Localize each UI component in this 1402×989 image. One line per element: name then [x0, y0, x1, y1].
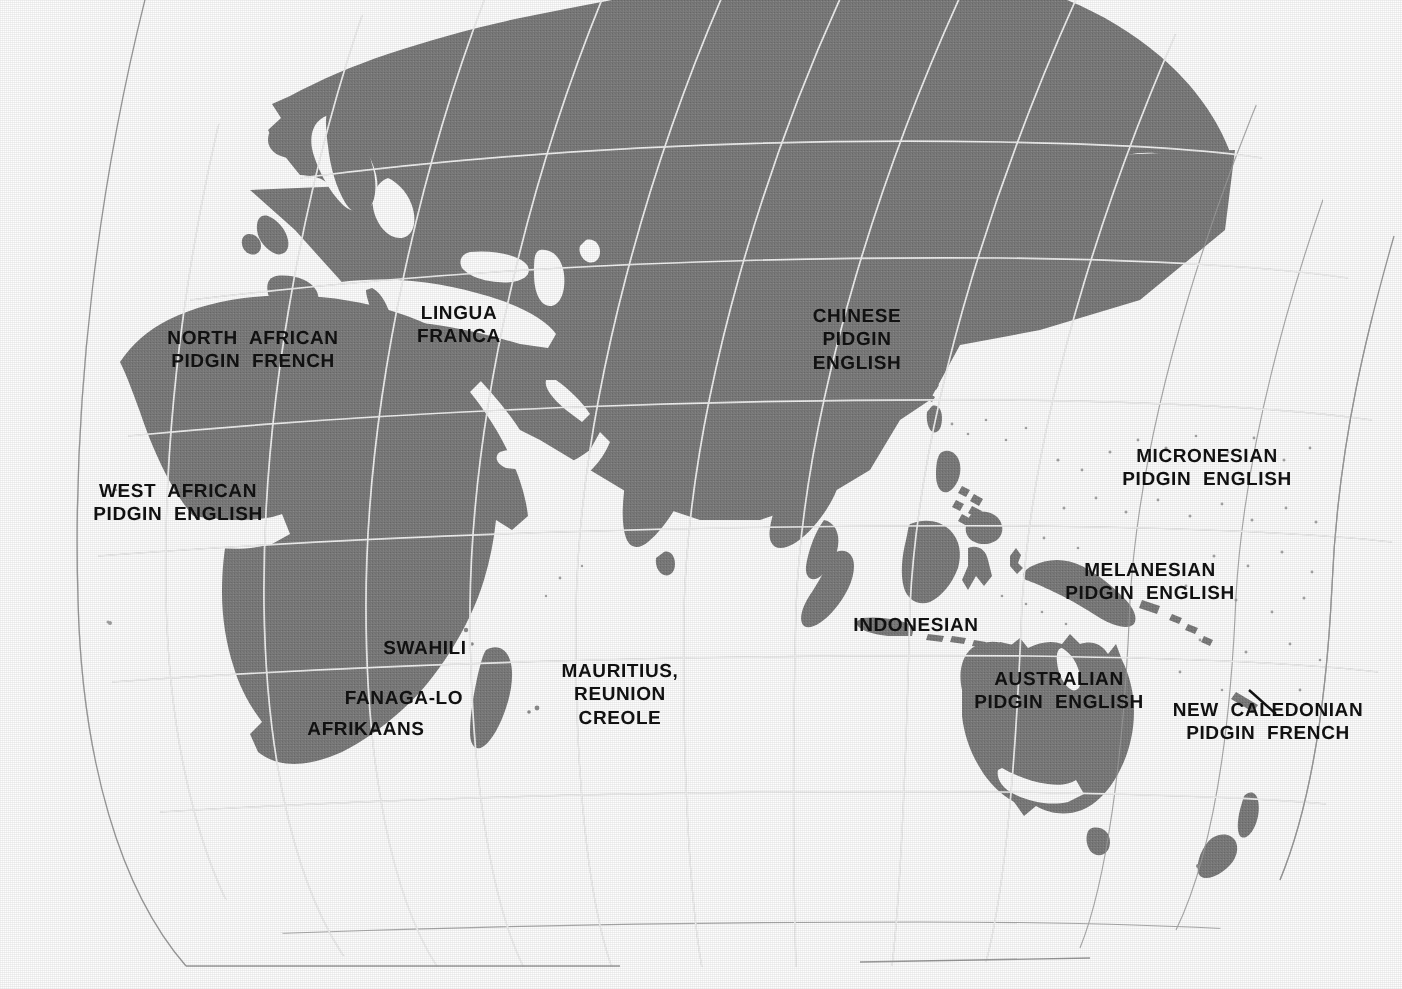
map-label-line: PIDGIN ENGLISH	[974, 691, 1143, 714]
map-label-line: SWAHILI	[383, 637, 466, 660]
map-label-chinese-pidgin-english: CHINESEPIDGINENGLISH	[813, 305, 902, 375]
map-label-new-caledonian-pidgin-french: NEW CALEDONIANPIDGIN FRENCH	[1173, 699, 1364, 745]
map-label-line: PIDGIN FRENCH	[1173, 722, 1364, 745]
map-label-swahili: SWAHILI	[383, 637, 466, 660]
map-label-line: PIDGIN ENGLISH	[1122, 468, 1291, 491]
map-figure: NORTH AFRICANPIDGIN FRENCHLINGUAFRANCAWE…	[0, 0, 1402, 989]
map-label-line: MAURITIUS,	[562, 660, 679, 683]
map-label-line: AUSTRALIAN	[974, 668, 1143, 691]
map-label-lingua-franca: LINGUAFRANCA	[417, 302, 501, 348]
reunion-island	[527, 710, 531, 714]
map-label-line: CHINESE	[813, 305, 902, 328]
map-label-line: PIDGIN	[813, 328, 902, 351]
map-label-line: REUNION	[562, 683, 679, 706]
map-label-australian-pidgin-english: AUSTRALIANPIDGIN ENGLISH	[974, 668, 1143, 714]
map-label-fanaga-lo: FANAGA-LO	[345, 687, 463, 710]
map-label-line: NEW CALEDONIAN	[1173, 699, 1364, 722]
map-label-indonesian: INDONESIAN	[853, 614, 978, 637]
map-label-line: CREOLE	[562, 707, 679, 730]
map-label-line: PIDGIN ENGLISH	[93, 503, 262, 526]
map-label-line: AFRIKAANS	[307, 718, 424, 741]
map-label-line: FRANCA	[417, 325, 501, 348]
map-label-line: FANAGA-LO	[345, 687, 463, 710]
map-label-line: MICRONESIAN	[1122, 445, 1291, 468]
map-label-micronesian-pidgin-english: MICRONESIANPIDGIN ENGLISH	[1122, 445, 1291, 491]
map-label-melanesian-pidgin-english: MELANESIANPIDGIN ENGLISH	[1065, 559, 1234, 605]
map-label-line: PIDGIN FRENCH	[167, 350, 338, 373]
map-label-line: PIDGIN ENGLISH	[1065, 582, 1234, 605]
map-label-line: LINGUA	[417, 302, 501, 325]
map-label-mauritius-reunion-creole: MAURITIUS,REUNIONCREOLE	[562, 660, 679, 730]
map-label-west-african-pidgin-english: WEST AFRICANPIDGIN ENGLISH	[93, 480, 262, 526]
map-label-line: MELANESIAN	[1065, 559, 1234, 582]
map-label-north-african-pidgin-french: NORTH AFRICANPIDGIN FRENCH	[167, 327, 338, 373]
map-label-line: INDONESIAN	[853, 614, 978, 637]
mauritius-island	[535, 706, 540, 711]
comoros-island	[464, 628, 468, 632]
map-label-line: NORTH AFRICAN	[167, 327, 338, 350]
map-label-line: ENGLISH	[813, 352, 902, 375]
map-label-afrikaans: AFRIKAANS	[307, 718, 424, 741]
map-label-line: WEST AFRICAN	[93, 480, 262, 503]
